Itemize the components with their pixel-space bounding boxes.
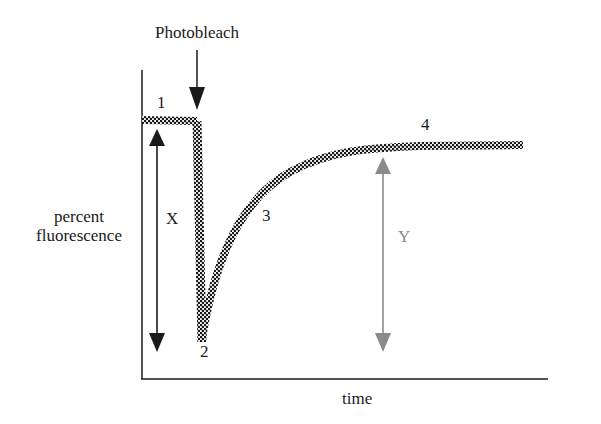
y-axis-label-line2: fluorescence [24, 226, 134, 245]
frap-diagram: Photobleach 1 2 3 4 X Y percent fluoresc… [0, 0, 601, 424]
y-axis-label: percent fluorescence [24, 207, 134, 245]
x-double-arrow-icon [149, 129, 165, 352]
x-axis-label: time [342, 390, 372, 407]
phase-label-3: 3 [262, 207, 271, 224]
recovery-segment [202, 145, 523, 338]
y-double-arrow-icon [375, 157, 391, 352]
phase-label-1: 1 [157, 94, 166, 111]
x-arrow-label: X [166, 210, 178, 227]
photobleach-arrow-icon [189, 50, 205, 110]
y-arrow-label: Y [398, 228, 410, 245]
frap-curve [142, 120, 523, 342]
phase-label-4: 4 [421, 116, 430, 133]
y-axis-label-line1: percent [24, 207, 134, 226]
photobleach-label: Photobleach [155, 24, 239, 41]
bleach-drop-segment [197, 121, 202, 342]
phase-label-2: 2 [200, 343, 209, 360]
baseline-segment [142, 120, 197, 121]
